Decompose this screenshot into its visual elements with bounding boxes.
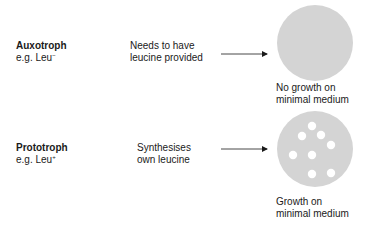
petri-dish-no-growth [277, 5, 353, 81]
colony-dot [298, 132, 306, 140]
petri-dish-growth [277, 111, 353, 187]
colony-dot [289, 151, 297, 159]
colony-dot [308, 170, 316, 178]
colony-dot [317, 131, 325, 139]
colony-dot [327, 169, 335, 177]
colony-dot [308, 122, 316, 130]
colony-dot [308, 151, 316, 159]
colony-dot [327, 141, 335, 149]
diagram-graphics [0, 0, 370, 229]
